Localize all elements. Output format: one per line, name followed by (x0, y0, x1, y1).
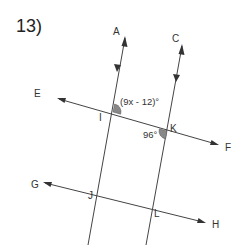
line-a (88, 36, 128, 245)
angle-label-i: (9x - 12)° (120, 96, 159, 107)
label-c: C (172, 33, 179, 44)
label-i: I (99, 112, 102, 123)
arrow-left-icon (57, 98, 66, 103)
label-a: A (113, 26, 120, 37)
arrow-up-icon (179, 44, 185, 55)
label-k: K (170, 123, 177, 134)
label-j: J (88, 190, 93, 201)
label-e: E (34, 88, 41, 99)
geometry-diagram: 13) A C E F G H I K J L (9x - 12)° 96° (0, 0, 240, 245)
problem-number: 13) (16, 16, 42, 36)
label-f: F (225, 142, 231, 153)
line-gh (43, 182, 206, 223)
arrow-right-icon (210, 140, 219, 145)
label-g: G (31, 179, 39, 190)
arrow-right-icon (197, 218, 206, 223)
parallel-tick-arrow-icon (173, 74, 180, 82)
angle-label-k: 96° (143, 129, 158, 140)
label-l: L (154, 208, 160, 219)
label-h: H (212, 219, 219, 230)
angle-mark-k (159, 129, 167, 139)
line-c (146, 44, 185, 245)
arrow-up-icon (122, 36, 128, 47)
arrow-left-icon (43, 182, 52, 187)
